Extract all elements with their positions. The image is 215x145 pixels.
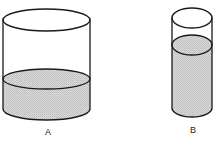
cylinder-b-label: B [190, 126, 196, 135]
cylinder-a-liquid-surface [3, 69, 90, 89]
cylinder-a-label: A [45, 128, 51, 137]
cylinder-a-top-rim [3, 9, 90, 31]
cylinder-b [172, 8, 212, 117]
cylinder-a [3, 9, 90, 120]
diagram-canvas [0, 0, 215, 145]
cylinder-b-top-rim [172, 8, 212, 28]
cylinder-b-liquid-surface [172, 35, 212, 55]
